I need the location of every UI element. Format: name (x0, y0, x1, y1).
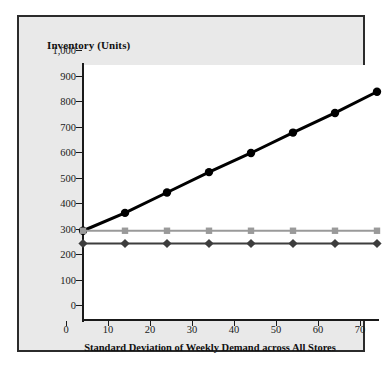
y-tick-label: 0 (34, 300, 76, 311)
y-tick-mark (76, 152, 82, 153)
x-tick-mark (192, 321, 193, 326)
x-tick-mark (360, 321, 361, 326)
y-tick-mark (76, 178, 82, 179)
x-tick-mark (318, 321, 319, 326)
y-tick-mark (76, 101, 82, 102)
y-tick-mark (76, 305, 82, 306)
x-tick-mark (150, 321, 151, 326)
chart-panel: Inventory (Units) 0100200300400500600700… (17, 15, 365, 352)
y-tick-mark (76, 280, 82, 281)
y-tick-label: 800 (34, 96, 76, 107)
y-tick-label: 300 (34, 223, 76, 234)
x-axis-title: Standard Deviation of Weekly Demand acro… (36, 342, 384, 353)
y-tick-label: 700 (34, 121, 76, 132)
y-tick-label: 600 (34, 147, 76, 158)
x-tick-mark (66, 321, 67, 326)
plot-area (83, 65, 377, 320)
y-tick-mark (76, 229, 82, 230)
y-tick-label: 200 (34, 249, 76, 260)
y-tick-label: 100 (34, 274, 76, 285)
y-tick-label: 500 (34, 172, 76, 183)
y-axis-line (82, 63, 84, 322)
x-tick-mark (108, 321, 109, 326)
y-tick-mark (76, 50, 82, 51)
y-tick-mark (76, 203, 82, 204)
y-tick-mark (76, 127, 82, 128)
y-tick-label: 900 (34, 70, 76, 81)
y-tick-label: 400 (34, 198, 76, 209)
y-tick-mark (76, 76, 82, 77)
x-tick-mark (276, 321, 277, 326)
y-tick-label: 1,000 (34, 45, 76, 56)
x-tick-mark (234, 321, 235, 326)
x-axis-line (82, 319, 379, 321)
y-tick-mark (76, 254, 82, 255)
